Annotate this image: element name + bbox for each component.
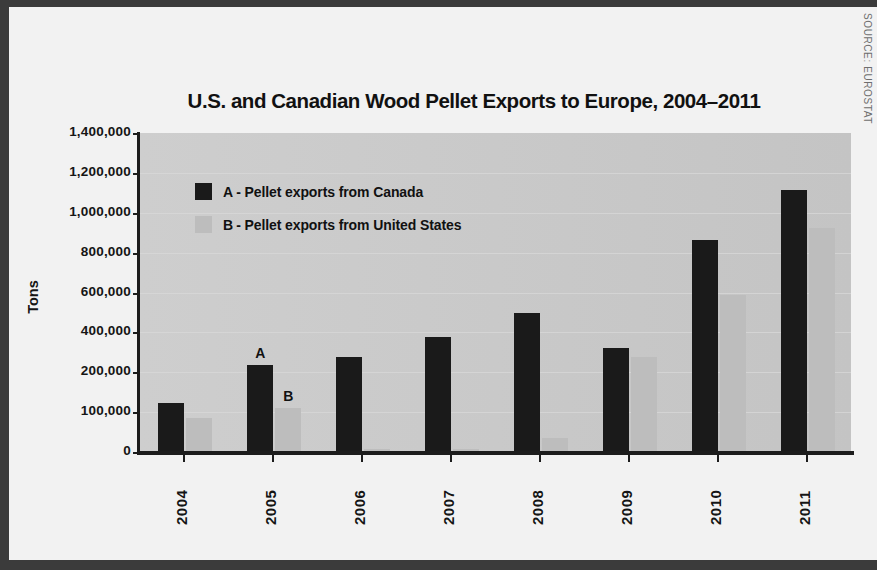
legend-key-A: A bbox=[223, 184, 233, 200]
x-axis-tick-mark bbox=[183, 455, 185, 462]
y-axis-tick-labels: 1,400,0001,200,0001,000,000800,000600,00… bbox=[19, 7, 131, 560]
bar-2006-series-A bbox=[336, 357, 362, 452]
y-axis-tick-label: 0 bbox=[35, 443, 131, 458]
x-axis-tick-label-2007: 2007 bbox=[440, 469, 462, 525]
bar-2009-series-A bbox=[603, 348, 629, 452]
bar-2010-series-A bbox=[692, 240, 718, 452]
x-axis-tick-mark bbox=[361, 455, 363, 462]
legend-key-B: B bbox=[223, 217, 233, 233]
y-axis-tick-mark bbox=[133, 412, 140, 414]
y-axis-tick-label: 100,000 bbox=[35, 403, 131, 418]
y-axis-tick-label: 200,000 bbox=[35, 363, 131, 378]
bar-2008-series-A bbox=[514, 313, 540, 452]
legend-swatch-icon-B bbox=[195, 216, 212, 233]
x-axis-tick-mark bbox=[539, 455, 541, 462]
gridline bbox=[140, 293, 851, 294]
legend-label-B: - Pellet exports from United States bbox=[236, 217, 461, 233]
annotation-B: B bbox=[283, 388, 293, 404]
y-axis-tick-mark bbox=[133, 213, 140, 215]
x-axis-line bbox=[137, 451, 854, 455]
chart-legend: A - Pellet exports from CanadaB - Pellet… bbox=[195, 175, 461, 241]
x-axis-tick-mark bbox=[450, 455, 452, 462]
y-axis-tick-mark bbox=[133, 173, 140, 175]
x-axis-tick-mark bbox=[806, 455, 808, 462]
x-axis-tick-label-2011: 2011 bbox=[796, 469, 818, 525]
y-axis-tick-mark bbox=[133, 293, 140, 295]
y-axis-tick-mark bbox=[133, 253, 140, 255]
source-credit-label: SOURCE: EUROSTAT bbox=[859, 13, 875, 163]
bar-2009-series-B bbox=[631, 357, 657, 452]
x-axis-tick-label-2010: 2010 bbox=[707, 469, 729, 525]
x-axis-tick-mark bbox=[717, 455, 719, 462]
page-title: U.S. and Canadian Wood Pellet Exports to… bbox=[104, 89, 844, 113]
y-axis-tick-mark bbox=[133, 332, 140, 334]
legend-item-A: A - Pellet exports from Canada bbox=[195, 175, 461, 208]
x-axis-tick-label-2004: 2004 bbox=[173, 469, 195, 525]
bar-2010-series-B bbox=[720, 295, 746, 452]
y-axis-tick-label: 600,000 bbox=[35, 284, 131, 299]
legend-item-B: B - Pellet exports from United States bbox=[195, 208, 461, 241]
bar-2005-series-B bbox=[275, 408, 301, 452]
y-axis-tick-label: 1,200,000 bbox=[35, 164, 131, 179]
x-axis-tick-label-2006: 2006 bbox=[351, 469, 373, 525]
legend-swatch-icon-A bbox=[195, 183, 212, 200]
bar-2005-series-A bbox=[247, 365, 273, 452]
bar-2007-series-A bbox=[425, 337, 451, 452]
bar-2004-series-B bbox=[186, 418, 212, 452]
y-axis-tick-label: 400,000 bbox=[35, 323, 131, 338]
y-axis-tick-mark bbox=[133, 133, 140, 135]
y-axis-tick-label: 1,400,000 bbox=[35, 124, 131, 139]
y-axis-tick-mark bbox=[133, 452, 140, 454]
gridline bbox=[140, 253, 851, 254]
x-axis-tick-mark bbox=[272, 455, 274, 462]
legend-label-A: - Pellet exports from Canada bbox=[236, 184, 423, 200]
x-axis-tick-label-2008: 2008 bbox=[529, 469, 551, 525]
bar-2008-series-B bbox=[542, 438, 568, 452]
y-axis-tick-mark bbox=[133, 372, 140, 374]
gridline bbox=[140, 173, 851, 174]
x-axis-tick-label-2005: 2005 bbox=[262, 469, 284, 525]
x-axis-tick-mark bbox=[628, 455, 630, 462]
y-axis-tick-label: 1,000,000 bbox=[35, 204, 131, 219]
y-axis-tick-label: 800,000 bbox=[35, 244, 131, 259]
annotation-A: A bbox=[255, 345, 265, 361]
bar-2004-series-A bbox=[158, 403, 184, 452]
bar-2011-series-B bbox=[809, 228, 835, 452]
x-axis-tick-label-2009: 2009 bbox=[618, 469, 640, 525]
chart-figure: SOURCE: EUROSTAT U.S. and Canadian Wood … bbox=[0, 0, 877, 570]
bar-2011-series-A bbox=[781, 190, 807, 452]
